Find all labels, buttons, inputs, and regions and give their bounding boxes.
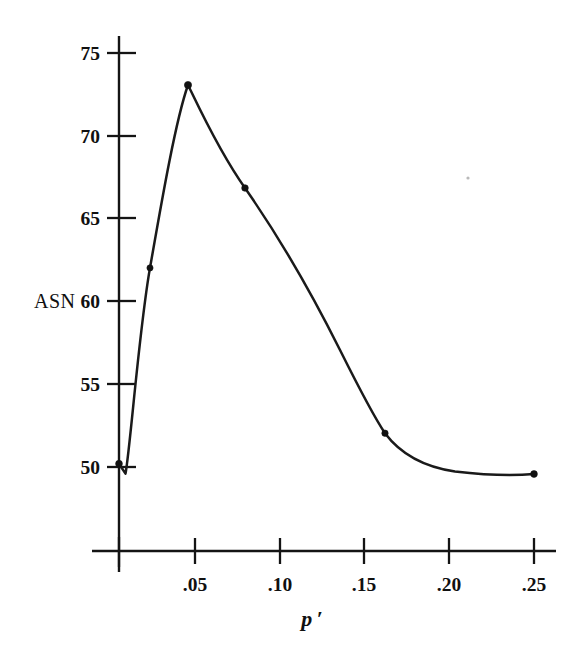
x-tick-label-0-10: .10: [268, 574, 292, 595]
data-point-3: [242, 185, 249, 192]
x-axis-label: p ′: [299, 606, 323, 631]
y-tick-label-75: 75: [81, 43, 101, 64]
y-tick-label-60: 60: [81, 291, 101, 312]
x-tick-label-0-15: .15: [352, 574, 377, 595]
y-tick-label-55: 55: [81, 374, 101, 395]
x-tick-label-0-20: .20: [437, 574, 461, 595]
data-point-5: [531, 471, 538, 478]
y-tick-label-50: 50: [81, 457, 101, 478]
data-point-1: [147, 265, 153, 271]
y-axis-label: ASN: [34, 290, 76, 312]
x-tick-label-0-25: .25: [522, 574, 547, 595]
x-axis-tick-labels: .05 .10 .15 .20 .25: [183, 574, 547, 595]
asn-chart-figure: 75 70 65 60 55 50 .05 .10 .15 .20 .25 AS…: [0, 0, 570, 649]
y-tick-label-65: 65: [81, 208, 101, 229]
data-point-4: [382, 430, 388, 436]
y-tick-label-70: 70: [81, 126, 101, 147]
y-axis-tick-labels: 75 70 65 60 55 50: [81, 43, 101, 478]
axes-group: [92, 36, 556, 572]
data-point-0: [116, 460, 123, 467]
scan-artifact-speck: [466, 176, 469, 179]
asn-curve: [119, 85, 534, 475]
chart-canvas: 75 70 65 60 55 50 .05 .10 .15 .20 .25 AS…: [0, 0, 570, 649]
data-point-markers: [116, 81, 538, 477]
data-point-2: [184, 81, 191, 88]
x-tick-label-0-05: .05: [183, 574, 208, 595]
y-axis-ticks: [107, 53, 136, 467]
